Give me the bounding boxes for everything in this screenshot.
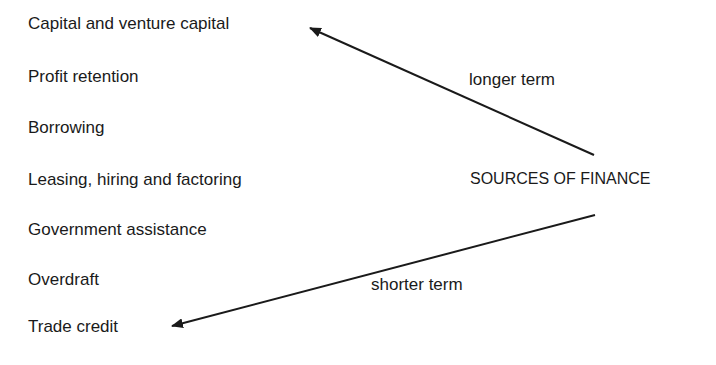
source-item-leasing: Leasing, hiring and factoring bbox=[28, 170, 242, 190]
source-item-capital: Capital and venture capital bbox=[28, 14, 229, 34]
longer-term-arrow bbox=[310, 28, 594, 155]
source-item-profit-retention: Profit retention bbox=[28, 67, 139, 87]
center-label: SOURCES OF FINANCE bbox=[470, 170, 650, 188]
source-item-overdraft: Overdraft bbox=[28, 270, 99, 290]
shorter-term-arrow bbox=[172, 215, 595, 326]
source-item-borrowing: Borrowing bbox=[28, 118, 105, 138]
source-item-trade-credit: Trade credit bbox=[28, 317, 118, 337]
source-item-government-assistance: Government assistance bbox=[28, 220, 207, 240]
longer-term-label: longer term bbox=[469, 70, 555, 90]
shorter-term-label: shorter term bbox=[371, 275, 463, 295]
